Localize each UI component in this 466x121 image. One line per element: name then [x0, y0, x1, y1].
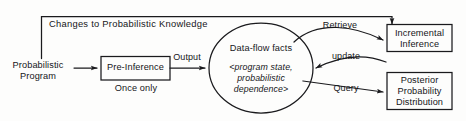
node-label-probabilistic-program-line1: Probabilistic: [0, 60, 76, 70]
node-label-incremental-inference-line1: Incremental: [387, 28, 452, 38]
node-label-incremental-inference-line2: Inference: [387, 39, 452, 49]
edge-label-feedback-loop: Changes to Probabilistic Knowledge: [49, 19, 249, 30]
edge-label-update: update: [320, 51, 372, 61]
node-label-posterior-line3: Distribution: [386, 97, 453, 107]
dataflow-diagram: Changes to Probabilistic Knowledge Proba…: [0, 0, 466, 121]
edge-label-output: Output: [162, 52, 212, 62]
node-label-probabilistic-program-line2: Program: [0, 71, 76, 81]
node-detail-probabilistic: probabilistic: [209, 74, 313, 84]
node-label-data-flow-facts: Data-flow facts: [211, 43, 311, 53]
node-caption-once-only: Once only: [96, 83, 176, 93]
node-detail-program-state: <program state,: [209, 63, 313, 73]
node-label-pre-inference: Pre-Inference: [101, 62, 170, 72]
node-label-posterior-line1: Posterior: [387, 75, 452, 85]
node-detail-dependence: dependence>: [209, 85, 313, 95]
node-label-posterior-line2: Probability: [387, 86, 452, 96]
edge-label-retrieve: Retrieve: [310, 20, 370, 30]
edge-label-query: Query: [320, 83, 372, 93]
